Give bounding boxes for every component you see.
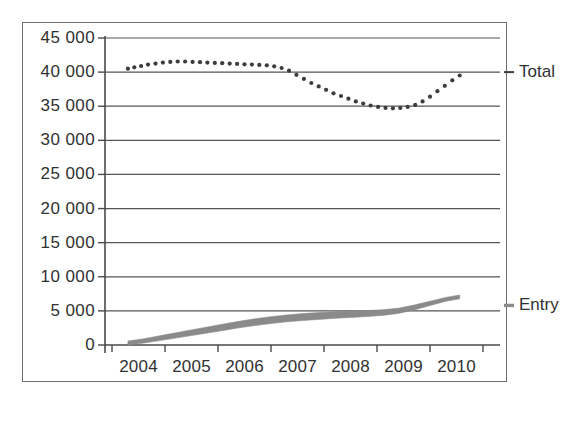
total-data-point [309, 81, 313, 85]
total-data-point [450, 78, 454, 82]
y-tick-label: 0 [28, 335, 95, 355]
x-tick-label: 2005 [172, 357, 211, 377]
total-data-point [191, 60, 195, 64]
total-data-point [146, 63, 150, 67]
y-tick-label: 25 000 [28, 164, 95, 184]
y-tick-label: 40 000 [28, 62, 95, 82]
chart-figure: 05 00010 00015 00020 00025 00030 00035 0… [0, 0, 580, 430]
total-data-point [406, 105, 410, 109]
total-data-point [302, 77, 306, 81]
total-data-point [339, 94, 343, 98]
total-data-point [346, 97, 350, 101]
y-tick-label: 30 000 [28, 130, 95, 150]
total-data-point [421, 99, 425, 103]
total-data-point [205, 61, 209, 65]
x-axis [105, 345, 500, 352]
total-data-point [331, 91, 335, 95]
total-data-point [369, 103, 373, 107]
total-data-point [126, 67, 130, 71]
series-label-entry: Entry [519, 295, 559, 315]
entry-line [128, 295, 460, 345]
total-data-point [242, 62, 246, 66]
total-data-point [458, 73, 462, 77]
total-data-point [324, 88, 328, 92]
total-data-point [383, 106, 387, 110]
y-tick-label: 15 000 [28, 233, 95, 253]
y-tick-label: 20 000 [28, 199, 95, 219]
total-data-point [153, 62, 157, 66]
total-data-point [176, 59, 180, 63]
total-data-point [257, 63, 261, 67]
y-tick-label: 35 000 [28, 96, 95, 116]
y-tick-label: 5 000 [28, 301, 95, 321]
x-tick-label: 2009 [384, 357, 423, 377]
series-entry-band [128, 295, 460, 345]
total-data-point [435, 89, 439, 93]
series-label-total: Total [519, 62, 555, 82]
total-data-point [220, 61, 224, 65]
total-data-point [235, 62, 239, 66]
total-data-point [317, 84, 321, 88]
total-data-point [183, 59, 187, 63]
total-data-point [287, 69, 291, 73]
total-data-point [139, 64, 143, 68]
legend-markers [504, 72, 514, 305]
y-tick-label: 45 000 [28, 28, 95, 48]
total-data-point [198, 60, 202, 64]
x-tick-label: 2006 [225, 357, 264, 377]
x-tick-label: 2008 [331, 357, 370, 377]
total-data-point [280, 66, 284, 70]
total-data-point [250, 63, 254, 67]
total-data-point [443, 84, 447, 88]
total-data-point [354, 99, 358, 103]
total-data-point [161, 61, 165, 65]
y-axis [98, 36, 105, 353]
total-data-point [272, 64, 276, 68]
x-tick-label: 2010 [437, 357, 476, 377]
total-data-point [398, 106, 402, 110]
total-data-point [168, 60, 172, 64]
total-data-point [294, 73, 298, 77]
y-tick-label: 10 000 [28, 267, 95, 287]
x-tick-label: 2004 [119, 357, 158, 377]
series-total-dots [126, 59, 462, 110]
total-data-point [391, 106, 395, 110]
total-data-point [228, 62, 232, 66]
total-data-point [132, 65, 136, 69]
total-data-point [376, 105, 380, 109]
total-data-point [265, 63, 269, 67]
total-data-point [428, 95, 432, 99]
total-data-point [213, 61, 217, 65]
total-data-point [361, 101, 365, 105]
x-tick-label: 2007 [278, 357, 317, 377]
total-data-point [413, 103, 417, 107]
